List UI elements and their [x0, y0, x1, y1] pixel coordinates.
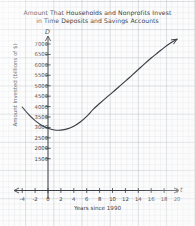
axes-layer — [14, 36, 179, 199]
plot-area — [0, 0, 195, 226]
